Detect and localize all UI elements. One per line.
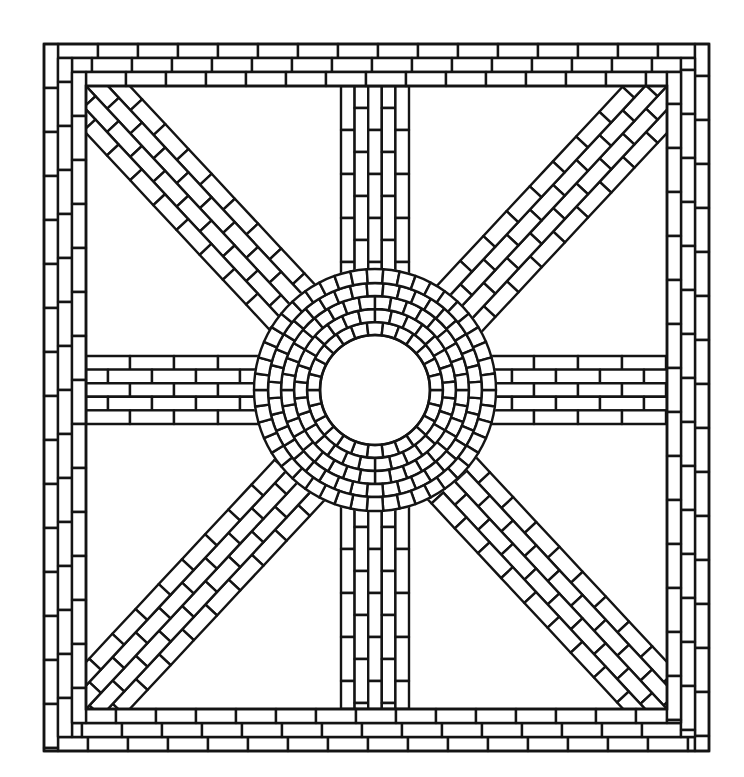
brick: [395, 549, 409, 593]
brick: [522, 723, 562, 737]
brick: [667, 148, 681, 192]
brick: [382, 615, 396, 659]
brick: [108, 370, 152, 384]
brick: [72, 512, 86, 556]
brick: [292, 58, 332, 72]
brick: [488, 737, 528, 751]
brick: [98, 44, 138, 58]
brick: [695, 296, 709, 340]
brick: [286, 72, 326, 86]
brick: [355, 659, 369, 703]
brick: [152, 397, 196, 411]
brick: [382, 527, 396, 571]
brick: [174, 356, 218, 370]
brick: [681, 554, 695, 598]
brick: [695, 44, 709, 76]
brick: [658, 44, 695, 58]
brick: [341, 549, 355, 593]
brick: [608, 737, 648, 751]
brick: [72, 292, 86, 336]
brick: [72, 723, 82, 737]
brick: [512, 370, 556, 384]
brick: [600, 397, 644, 411]
brick: [681, 58, 695, 70]
brick: [566, 72, 606, 86]
brick: [622, 356, 666, 370]
brick: [126, 72, 166, 86]
brick: [382, 152, 396, 196]
brick: [72, 556, 86, 600]
brick: [695, 252, 709, 296]
brick: [368, 737, 408, 751]
brick: [667, 456, 681, 500]
brick: [196, 370, 240, 384]
brick: [622, 410, 666, 424]
brick: [681, 730, 695, 737]
brick: [368, 681, 382, 709]
brick: [341, 593, 355, 637]
brick: [332, 58, 372, 72]
brick: [162, 723, 202, 737]
brick: [395, 505, 409, 549]
brick: [72, 600, 86, 644]
ring-brick: [367, 269, 384, 283]
brick: [355, 152, 369, 196]
brick: [58, 302, 72, 346]
ring-brick: [367, 484, 384, 497]
brick: [72, 336, 86, 380]
brick: [355, 527, 369, 571]
brick: [58, 654, 72, 698]
brick: [86, 356, 130, 370]
brick: [58, 346, 72, 390]
brick: [606, 72, 646, 86]
brick: [578, 356, 622, 370]
brick: [130, 383, 174, 397]
brick: [196, 397, 240, 411]
brick-pattern-diagram: [0, 0, 744, 777]
brick: [695, 692, 709, 736]
brick: [58, 44, 98, 58]
brick: [667, 676, 681, 720]
brick: [667, 368, 681, 412]
brick: [341, 505, 355, 549]
brick: [418, 44, 458, 58]
brick: [208, 737, 248, 751]
brick: [72, 424, 86, 468]
ring-brick: [268, 382, 281, 399]
brick: [282, 723, 322, 737]
brick: [526, 72, 566, 86]
brick: [382, 196, 396, 240]
brick: [166, 72, 206, 86]
brick: [72, 72, 86, 116]
brick: [368, 174, 382, 218]
brick: [58, 82, 72, 126]
ring-brick: [254, 390, 269, 406]
brick: [681, 642, 695, 686]
brick: [341, 637, 355, 681]
circular-brick-ring: [253, 268, 497, 512]
brick: [395, 130, 409, 174]
brick: [578, 383, 622, 397]
brick: [58, 170, 72, 214]
brick: [492, 58, 532, 72]
brick: [242, 723, 282, 737]
brick: [382, 108, 396, 152]
brick: [534, 410, 578, 424]
brick: [646, 72, 667, 86]
brick: [458, 44, 498, 58]
brick: [316, 709, 356, 723]
brick: [82, 723, 122, 737]
brick: [58, 258, 72, 302]
brick: [602, 723, 642, 737]
brick: [368, 593, 382, 637]
brick: [341, 130, 355, 174]
brick: [130, 356, 174, 370]
brick: [667, 632, 681, 676]
brick: [341, 86, 355, 130]
brick: [490, 410, 534, 424]
brick: [368, 637, 382, 681]
brick: [667, 104, 681, 148]
brick: [395, 681, 409, 709]
brick: [395, 218, 409, 262]
brick: [116, 709, 156, 723]
